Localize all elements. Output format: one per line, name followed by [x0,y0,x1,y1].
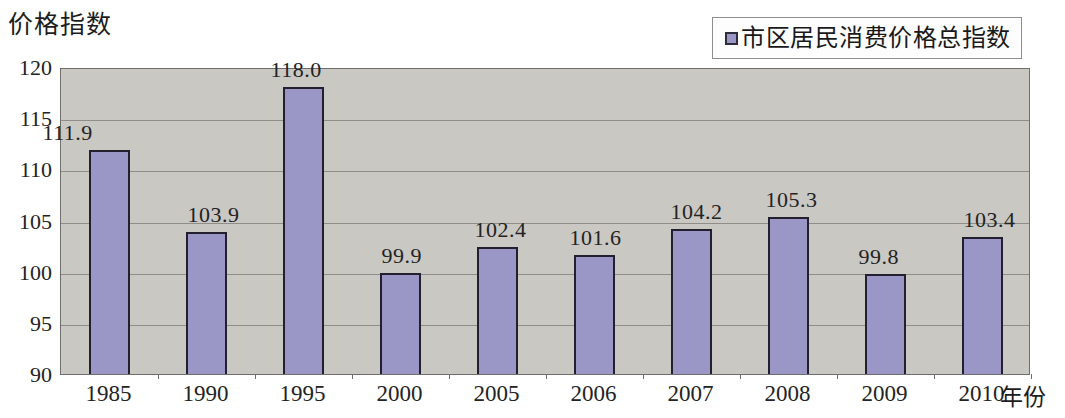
bar-value-label: 99.8 [859,246,900,268]
y-axis-tick-label: 120 [4,57,52,79]
x-axis-tick-labels: 1985199019952000200520062007200820092010 [0,382,1065,416]
y-axis-tick-labels: 1201151101051009590 [0,68,1065,375]
x-axis-tick-label: 2000 [352,382,448,405]
bar-value-label: 99.9 [382,245,423,267]
bar-value-label: 111.9 [43,122,93,144]
bar-value-label: 102.4 [475,219,527,241]
legend-entry-label: 市区居民消费价格总指数 [741,26,1011,50]
bar-value-label: 103.9 [188,204,240,226]
bar-value-label: 101.6 [570,227,622,249]
legend-color-swatch-icon [725,32,738,45]
x-axis-tick-label: 1995 [255,382,351,405]
chart-legend: 市区居民消费价格总指数 [712,17,1022,59]
bar-value-label: 103.4 [964,209,1016,231]
x-axis-tick-label: 2007 [643,382,739,405]
y-axis-title: 价格指数 [8,4,112,40]
x-axis-tick-label: 1985 [61,382,157,405]
x-axis-tick-label: 2008 [740,382,836,405]
x-axis-tick-label: 2009 [837,382,933,405]
bar-value-label: 105.3 [766,189,818,211]
y-axis-tick-label: 110 [4,159,52,181]
bar-value-label: 118.0 [271,59,322,81]
x-axis-title: 年份 [1000,386,1046,409]
x-axis-tick-label: 1990 [158,382,254,405]
y-axis-tick-label: 105 [4,211,52,233]
y-axis-tick-label: 95 [4,313,52,335]
y-axis-tick-label: 100 [4,262,52,284]
bar-chart: 价格指数 市区居民消费价格总指数 1201151101051009590 111… [0,0,1065,418]
x-axis-tick-label: 2006 [546,382,642,405]
x-axis-tick-label: 2005 [449,382,545,405]
bar-value-label: 104.2 [671,201,723,223]
